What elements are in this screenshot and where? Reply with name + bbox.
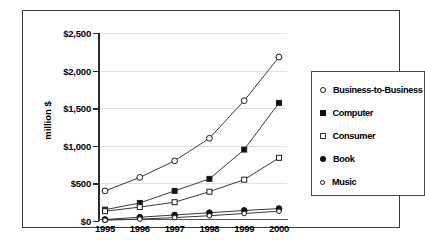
- data-point-marker: [242, 211, 247, 216]
- data-point-marker: [172, 200, 177, 205]
- series-line: [105, 103, 279, 210]
- data-point-marker: [137, 174, 143, 180]
- circle-open-marker-icon: [320, 87, 326, 93]
- data-point-marker: [138, 217, 143, 222]
- x-tick-label: 1996: [130, 223, 150, 234]
- chart-frame: $0$500$1,000$1,500$2,000$2,500 million $…: [22, 10, 400, 228]
- legend-item-book[interactable]: Book: [320, 151, 355, 167]
- data-point-marker: [207, 176, 212, 181]
- data-point-marker: [242, 147, 247, 152]
- x-tick-label: 1997: [165, 223, 185, 234]
- x-axis-tick-labels: 199519961997199819992000: [98, 223, 288, 240]
- legend-item-consumer[interactable]: Consumer: [320, 128, 375, 144]
- legend-item-computer[interactable]: Computer: [320, 105, 373, 121]
- y-tick-label: $500: [71, 178, 91, 189]
- data-point-marker: [207, 189, 212, 194]
- legend-item-music[interactable]: Music: [320, 174, 356, 190]
- data-point-marker: [277, 100, 282, 105]
- y-tick-label: $1,500: [63, 103, 91, 114]
- data-point-marker: [103, 218, 108, 223]
- data-point-marker: [241, 98, 247, 104]
- data-point-marker: [277, 155, 282, 160]
- series-line: [105, 209, 279, 220]
- y-tick-label: $2,000: [63, 65, 91, 76]
- chart-legend: Business-to-BusinessComputerConsumerBook…: [311, 71, 425, 196]
- data-point-marker: [207, 135, 213, 141]
- data-point-marker: [103, 209, 108, 214]
- chart-series-layer: [98, 33, 286, 221]
- data-point-marker: [172, 158, 178, 164]
- legend-item-label: Business-to-Business: [333, 85, 423, 95]
- series-computer: [103, 100, 282, 212]
- data-point-marker: [242, 177, 247, 182]
- data-point-marker: [207, 213, 212, 218]
- y-axis-tick-labels: $0$500$1,000$1,500$2,000$2,500: [23, 11, 91, 240]
- y-tick-label: $1,000: [63, 140, 91, 151]
- data-point-marker: [172, 188, 177, 193]
- data-point-marker: [277, 209, 282, 214]
- x-tick-label: 1999: [234, 223, 254, 234]
- series-music: [103, 209, 282, 223]
- data-point-marker: [102, 188, 108, 194]
- data-point-marker: [137, 205, 142, 210]
- circle-small-open-marker-icon: [320, 180, 325, 185]
- circle-filled-marker-icon: [320, 156, 326, 162]
- square-filled-marker-icon: [320, 110, 326, 116]
- square-open-marker-icon: [320, 133, 326, 139]
- legend-item-label: Book: [333, 154, 355, 164]
- data-point-marker: [172, 215, 177, 220]
- x-tick-label: 1998: [199, 223, 219, 234]
- data-point-marker: [276, 54, 282, 60]
- x-tick-label: 1995: [95, 223, 115, 234]
- legend-item-label: Consumer: [333, 131, 376, 141]
- y-tick-label: $2,500: [63, 28, 91, 39]
- series-line: [105, 211, 279, 220]
- y-tick-label: $0: [81, 216, 91, 227]
- legend-item-business-to-business[interactable]: Business-to-Business: [320, 82, 423, 98]
- x-tick-label: 2000: [269, 223, 289, 234]
- y-axis-title: million $: [42, 81, 53, 161]
- legend-item-label: Computer: [333, 108, 374, 118]
- legend-item-label: Music: [332, 177, 356, 187]
- series-line: [105, 57, 279, 191]
